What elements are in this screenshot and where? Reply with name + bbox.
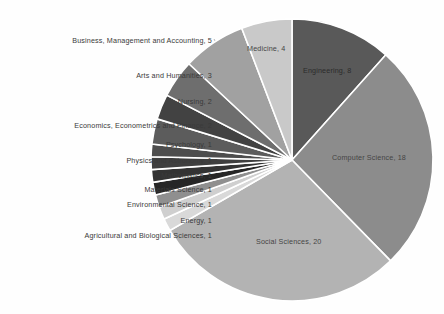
pie-slice-label-outside: Agricultural and Biological Sciences, 1 (85, 231, 212, 240)
pie-slice-label-outside: Nursing, 2 (178, 97, 212, 106)
pie-slice-label-inside: Computer Science, 18 (332, 153, 406, 162)
pie-chart-figure: Engineering, 8Computer Science, 18Social… (0, 0, 444, 314)
pie-slice-label-inside: Engineering, 8 (303, 66, 351, 75)
pie-slice-label-outside: Psychology, 1 (166, 140, 212, 149)
pie-slice-label-outside: Environmental Science, 1 (127, 200, 212, 209)
pie-slice-label-outside: Energy, 1 (180, 216, 212, 225)
pie-slice-label-inside: Social Sciences, 20 (256, 237, 321, 246)
pie-slice-label-outside: Physics and Astronomy, 1 (126, 156, 212, 165)
pie-slice-label-outside: Business, Management and Accounting, 5 (72, 36, 212, 45)
pie-slice-label-outside: Materials Science, 1 (144, 185, 212, 194)
pie-slice-label-outside: Economics, Econometrics and Finance, 2 (74, 121, 212, 130)
pie-slice-label-inside: Medicine, 4 (247, 44, 285, 53)
pie-slice-label-outside: Arts and Humanities, 3 (136, 71, 212, 80)
pie-slice-label-outside: Mathematics, 1 (161, 171, 212, 180)
